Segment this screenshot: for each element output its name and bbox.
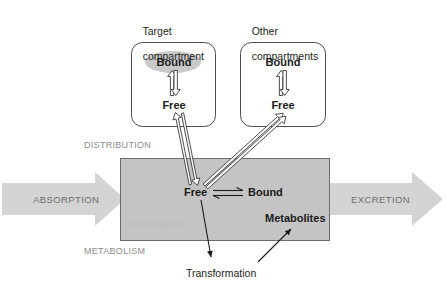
bloodstream-bound-label: Bound — [248, 186, 283, 199]
transformation-label: Transformation — [186, 267, 256, 279]
target-compartment-title-line1: Target — [142, 25, 171, 37]
other-compartment-title-line1: Other — [252, 25, 278, 37]
target-bound-label: Bound — [154, 56, 194, 69]
distribution-label: DISTRIBUTION — [84, 140, 151, 151]
metabolites-label: Metabolites — [265, 212, 326, 225]
diagram-canvas — [0, 0, 446, 292]
other-bound-label: Bound — [263, 56, 303, 69]
bloodstream-free-label: Free — [184, 186, 207, 199]
other-free-label: Free — [263, 99, 303, 112]
pharmacokinetics-diagram: Target compartment Other compartments Bo… — [0, 0, 446, 292]
bloodstream-name-label: Bloodstream — [126, 218, 185, 230]
absorption-label: ABSORPTION — [33, 194, 99, 205]
target-free-label: Free — [154, 99, 194, 112]
excretion-label: EXCRETION — [351, 194, 410, 205]
metabolism-label: METABOLISM — [84, 246, 145, 257]
